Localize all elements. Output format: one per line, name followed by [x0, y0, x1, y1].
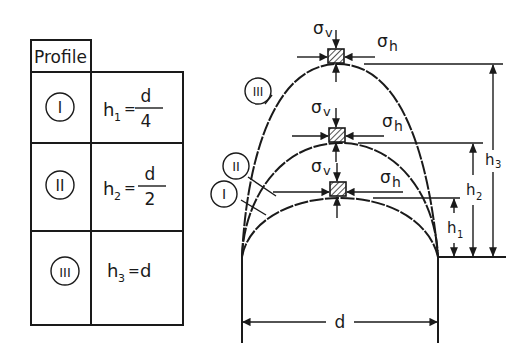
- sigma-v-label: σ: [311, 97, 322, 117]
- svg-text:1: 1: [457, 229, 463, 240]
- table-row-profile-2: II h 2 = d 2: [46, 164, 166, 209]
- profile-numeral: II: [56, 177, 65, 195]
- svg-text:II: II: [232, 159, 240, 174]
- leader-line-2: [248, 177, 276, 196]
- sigma-h-label: σ: [377, 31, 388, 51]
- sigma-v-label: σ: [313, 18, 324, 38]
- width-dimension: d: [243, 312, 437, 332]
- soil-element: [329, 128, 345, 142]
- formula-equals: =: [124, 180, 136, 196]
- formula-h: h: [103, 178, 114, 199]
- table-row-profile-1: I h 1 = d 4: [46, 86, 163, 131]
- formula-equals: =: [124, 101, 136, 117]
- sigma-h-label: σ: [380, 167, 391, 187]
- svg-text:2: 2: [476, 191, 482, 202]
- formula-numerator: d: [145, 164, 156, 184]
- profile-label-3: III: [245, 78, 271, 104]
- profile-arch-1: [242, 198, 438, 257]
- stress-element-2: σ v σ h: [292, 97, 403, 162]
- svg-text:h: h: [394, 118, 403, 134]
- h3-label: h: [485, 151, 495, 169]
- h2-label: h: [466, 181, 476, 199]
- svg-text:h: h: [389, 38, 398, 54]
- formula-denominator: 4: [141, 111, 152, 131]
- svg-text:3: 3: [495, 159, 501, 170]
- formula-denominator: 2: [145, 189, 156, 209]
- tunnel-profiles-diagram: Profile I h 1 = d 4 II h 2 = d 2: [0, 0, 524, 356]
- svg-text:v: v: [325, 25, 333, 40]
- height-dimensions: h 1 h 2 h 3: [358, 64, 506, 257]
- profile-arch-2: [242, 143, 438, 257]
- profile-label-1: I: [211, 181, 237, 207]
- formula-numerator: d: [141, 86, 152, 106]
- profile-numeral: III: [59, 265, 71, 280]
- formula-subscript: 1: [114, 111, 121, 124]
- formula-h: h: [103, 99, 114, 120]
- svg-text:v: v: [323, 163, 331, 178]
- svg-text:I: I: [222, 186, 226, 202]
- formula-rhs: d: [140, 260, 151, 281]
- svg-text:h: h: [392, 174, 401, 190]
- soil-element: [330, 182, 346, 196]
- table-header-label: Profile: [34, 47, 87, 67]
- stress-element-3: σ v σ h: [297, 18, 398, 82]
- d-label: d: [335, 312, 346, 332]
- formula-subscript: 3: [118, 272, 125, 285]
- formula-subscript: 2: [114, 190, 121, 203]
- formula-h: h: [107, 260, 118, 281]
- formula-equals: =: [128, 263, 140, 279]
- h1-label: h: [447, 219, 457, 237]
- profile-label-2: II: [223, 153, 249, 179]
- table-row-profile-3: III h 3 = d: [51, 257, 151, 285]
- stress-element-1: σ v σ h: [273, 156, 403, 218]
- profile-table: Profile I h 1 = d 4 II h 2 = d 2: [31, 40, 183, 325]
- svg-text:III: III: [253, 85, 264, 99]
- svg-text:v: v: [323, 104, 331, 119]
- sigma-v-label: σ: [311, 156, 322, 176]
- sigma-h-label: σ: [382, 111, 393, 131]
- soil-element: [328, 49, 344, 63]
- profile-numeral: I: [58, 99, 62, 117]
